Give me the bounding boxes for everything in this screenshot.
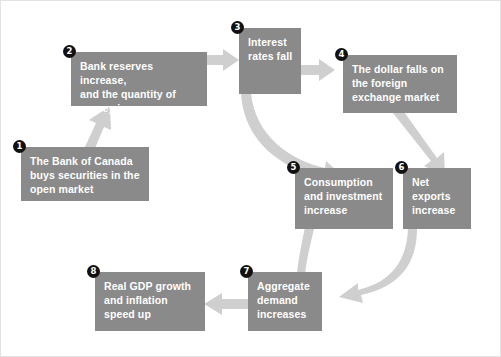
node-6[interactable]: Net exports increase — [403, 168, 471, 229]
badge-8: 8 — [87, 265, 100, 278]
arrow-6-to-7 — [339, 228, 417, 303]
badge-1: 1 — [13, 140, 26, 153]
node-8-line-1: Real GDP growth — [104, 279, 197, 293]
node-7[interactable]: Aggregate demand increases — [248, 272, 322, 331]
node-6-line-2: exports — [412, 189, 463, 203]
node-3[interactable]: Interest rates fall — [239, 28, 301, 94]
node-2-line-2: and the quantity of — [80, 87, 199, 101]
node-1-line-1: The Bank of Canada — [30, 154, 141, 168]
node-6-line-1: Net — [412, 175, 463, 189]
arrow-3-to-4 — [301, 59, 335, 81]
badge-2: 2 — [63, 45, 76, 58]
node-1[interactable]: The Bank of Canada buys securities in th… — [21, 147, 149, 201]
badge-5: 5 — [287, 161, 300, 174]
node-2-line-1: Bank reserves increase, — [80, 59, 199, 87]
node-5-line-1: Consumption — [304, 175, 385, 189]
node-6-line-3: increase — [412, 203, 463, 217]
node-2[interactable]: Bank reserves increase, and the quantity… — [71, 52, 207, 106]
node-4[interactable]: The dollar falls on the foreign exchange… — [343, 55, 457, 113]
node-7-line-3: increases — [257, 307, 314, 321]
node-5-line-3: increase — [304, 203, 385, 217]
node-7-line-2: demand — [257, 293, 314, 307]
badge-7: 7 — [240, 265, 253, 278]
badge-6: 6 — [395, 161, 408, 174]
badge-3: 3 — [231, 21, 244, 34]
node-4-line-3: exchange market — [352, 90, 449, 104]
node-1-line-2: buys securities in the — [30, 168, 141, 182]
node-3-line-2: rates fall — [248, 49, 293, 63]
node-8[interactable]: Real GDP growth and inflation speed up — [95, 272, 205, 331]
node-2-line-3: money increases — [80, 101, 199, 115]
node-8-line-2: and inflation — [104, 293, 197, 307]
node-4-line-2: the foreign — [352, 76, 449, 90]
node-7-line-1: Aggregate — [257, 279, 314, 293]
arrow-7-to-8 — [204, 293, 248, 315]
badge-4: 4 — [335, 48, 348, 61]
node-5-line-2: and investment — [304, 189, 385, 203]
arrow-2-to-3 — [207, 49, 239, 71]
node-5[interactable]: Consumption and investment increase — [295, 168, 393, 229]
node-4-line-1: The dollar falls on — [352, 62, 449, 76]
node-3-line-1: Interest — [248, 35, 293, 49]
node-1-line-3: open market — [30, 182, 141, 196]
flowchart-canvas: 1 The Bank of Canada buys securities in … — [0, 0, 501, 357]
node-8-line-3: speed up — [104, 307, 197, 321]
